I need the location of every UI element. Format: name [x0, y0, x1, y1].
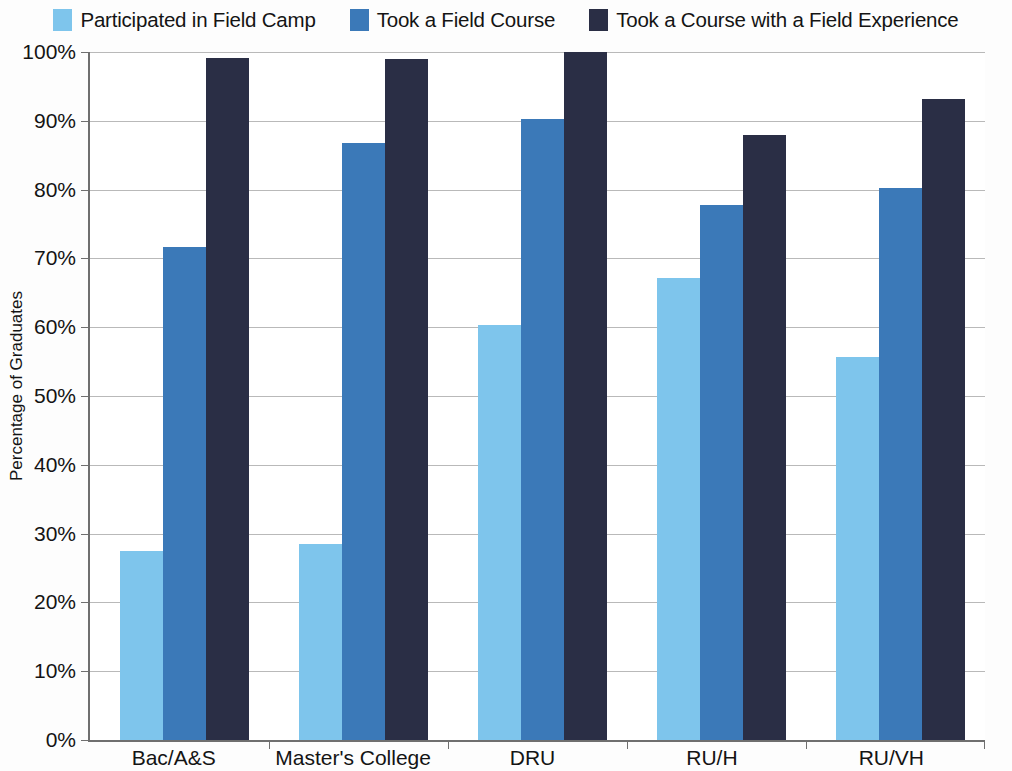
x-axis-label-text: RU/VH	[859, 746, 924, 770]
chart-legend: Participated in Field CampTook a Field C…	[0, 0, 1012, 40]
bar[interactable]	[657, 278, 700, 740]
bar[interactable]	[879, 188, 922, 740]
bar[interactable]	[385, 59, 428, 740]
y-axis-tick-label: 50%	[34, 384, 76, 408]
bar[interactable]	[299, 544, 342, 740]
bar[interactable]	[836, 357, 879, 740]
y-axis-tick	[81, 534, 90, 535]
y-axis-tick-label: 100%	[22, 40, 76, 64]
y-axis-tick-label: 80%	[34, 178, 76, 202]
bar[interactable]	[922, 99, 965, 740]
bar-group	[269, 52, 448, 740]
legend-label: Took a Course with a Field Experience	[616, 8, 958, 32]
y-axis-tick	[81, 465, 90, 466]
x-axis-label-text: DRU	[510, 746, 556, 770]
plot-wrapper: 100%90%80%70%60%50%40%30%20%10%0%	[88, 52, 985, 742]
x-axis-label-text: RU/H	[686, 746, 737, 770]
x-axis-label: RU/VH	[806, 744, 985, 771]
y-axis-tick-label: 20%	[34, 590, 76, 614]
y-axis-tick	[81, 258, 90, 259]
y-axis-tick	[81, 602, 90, 603]
legend-entry[interactable]: Took a Course with a Field Experience	[589, 8, 958, 32]
y-axis-tick-label: 30%	[34, 522, 76, 546]
y-axis-tick-label: 70%	[34, 246, 76, 270]
x-axis-label: RU/H	[626, 744, 805, 771]
bar[interactable]	[564, 52, 607, 740]
bar-group	[90, 52, 269, 740]
bar[interactable]	[342, 143, 385, 740]
y-axis-tick	[81, 190, 90, 191]
legend-swatch-icon	[350, 9, 369, 31]
x-axis-label: Master's College	[267, 744, 446, 771]
x-axis-label: Bac/A&S	[88, 744, 267, 771]
bar[interactable]	[163, 247, 206, 740]
y-axis-title: Percentage of Graduates	[2, 0, 32, 771]
y-axis-title-text: Percentage of Graduates	[7, 291, 27, 481]
bar-chart-figure: Participated in Field CampTook a Field C…	[0, 0, 1012, 771]
y-axis-tick	[81, 740, 90, 741]
legend-label: Took a Field Course	[377, 8, 556, 32]
x-axis-labels: Bac/A&SMaster's CollegeDRURU/HRU/VH	[88, 744, 985, 771]
x-axis-label-text: Bac/A&S	[132, 746, 216, 770]
bar[interactable]	[743, 135, 786, 740]
y-axis-tick-label: 60%	[34, 315, 76, 339]
legend-swatch-icon	[53, 9, 72, 31]
y-axis-tick	[81, 121, 90, 122]
x-axis-label: DRU	[447, 744, 626, 771]
bar[interactable]	[521, 119, 564, 740]
bar[interactable]	[206, 58, 249, 740]
legend-entry[interactable]: Took a Field Course	[350, 8, 556, 32]
bar-group	[627, 52, 806, 740]
y-axis-tick	[81, 671, 90, 672]
y-axis-tick	[81, 396, 90, 397]
legend-swatch-icon	[589, 9, 608, 31]
y-axis-tick-label: 0%	[46, 728, 76, 752]
bar-groups	[90, 52, 985, 740]
bar[interactable]	[120, 551, 163, 740]
y-axis-tick-label: 90%	[34, 109, 76, 133]
bar[interactable]	[700, 205, 743, 740]
bar-group	[448, 52, 627, 740]
bar-group	[806, 52, 985, 740]
legend-entry[interactable]: Participated in Field Camp	[53, 8, 315, 32]
y-axis-tick-label: 40%	[34, 453, 76, 477]
y-axis-tick	[81, 52, 90, 53]
plot-area: 100%90%80%70%60%50%40%30%20%10%0%	[88, 52, 985, 742]
bar[interactable]	[478, 325, 521, 740]
legend-label: Participated in Field Camp	[80, 8, 315, 32]
y-axis-tick	[81, 327, 90, 328]
x-axis-label-text: Master's College	[275, 746, 431, 770]
y-axis-tick-label: 10%	[34, 659, 76, 683]
